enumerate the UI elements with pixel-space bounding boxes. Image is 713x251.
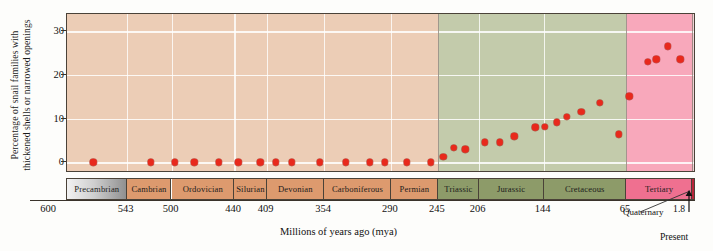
period-cell: Carboniferous [324, 179, 391, 199]
period-cell: Precambrian [67, 179, 127, 199]
y-axis-title-line2: thickened shells or narrowed openings [14, 5, 38, 185]
x-axis-tick-label: 600 [40, 203, 56, 214]
period-cell: Permian [391, 179, 438, 199]
period-label: Triassic [444, 184, 472, 194]
period-cell: Tertiary [626, 179, 692, 199]
x-axis-line [30, 200, 695, 201]
present-arrow-icon [684, 190, 694, 212]
x-axis-tick-label: 440 [225, 203, 241, 214]
period-label: Silurian [236, 184, 264, 194]
period-label: Cretaceous [565, 184, 605, 194]
x-axis-tick-label: 500 [163, 203, 179, 214]
period-label: Devonian [278, 184, 313, 194]
plot-band [626, 14, 692, 171]
x-axis-tick-label: 206 [470, 203, 486, 214]
x-axis-tick-label: 144 [535, 203, 551, 214]
y-axis: Percentage of snail families with thicke… [0, 0, 66, 185]
plot-area [66, 13, 695, 172]
gridline-horizontal [67, 31, 694, 32]
period-cell: Cambrian [127, 179, 172, 199]
gridline-horizontal [67, 75, 694, 76]
period-cell: Jurassic [479, 179, 544, 199]
gridline-vertical [324, 14, 325, 171]
x-axis-tick-label: 1.8 [673, 203, 685, 214]
plot-band [67, 14, 127, 171]
era-boundary-divider [692, 14, 693, 171]
period-label: Tertiary [645, 184, 673, 194]
chart-root: Percentage of snail families with thicke… [0, 0, 713, 251]
gridline-vertical [544, 14, 545, 171]
period-cell: Devonian [267, 179, 324, 199]
gridline-vertical [234, 14, 235, 171]
period-cell: Silurian [234, 179, 266, 199]
present-annotation: Present [660, 231, 688, 242]
x-axis-tick-label: 65 [620, 203, 631, 214]
period-label: Cambrian [131, 184, 166, 194]
x-axis-tick-label: 354 [315, 203, 331, 214]
era-boundary-divider [438, 14, 439, 171]
period-label: Permian [400, 184, 430, 194]
period-cell: Cretaceous [544, 179, 627, 199]
period-label: Jurassic [497, 184, 525, 194]
gridline-horizontal [67, 119, 694, 120]
x-axis-tick-label: 543 [118, 203, 134, 214]
gridline-vertical [479, 14, 480, 171]
geologic-period-strip: PrecambrianCambrianOrdovicianSilurianDev… [66, 178, 695, 200]
x-axis-tick-label: 409 [258, 203, 274, 214]
period-cell: Ordovician [172, 179, 235, 199]
period-label: Ordovician [183, 184, 223, 194]
x-axis-title-text: Millions of years ago (mya) [280, 226, 397, 237]
gridline-vertical [172, 14, 173, 171]
gridline-vertical [391, 14, 392, 171]
x-axis-tick-label: 290 [382, 203, 398, 214]
period-label: Precambrian [74, 184, 119, 194]
period-label: Carboniferous [332, 184, 383, 194]
gridline-vertical [127, 14, 128, 171]
x-axis-title: Millions of years ago (mya) [0, 226, 713, 237]
gridline-vertical [267, 14, 268, 171]
y-axis-title: Percentage of snail families with thicke… [0, 0, 30, 185]
x-axis-tick-label: 245 [429, 203, 445, 214]
period-cell: Triassic [438, 179, 479, 199]
